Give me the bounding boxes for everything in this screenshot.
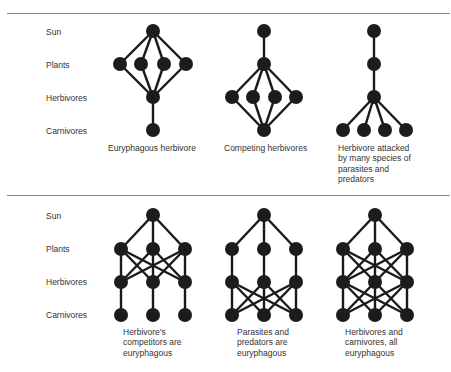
node-carnivores [257, 308, 271, 322]
node-carnivores [146, 123, 160, 137]
node-carnivores [257, 123, 271, 137]
node-sun [146, 208, 160, 222]
node-herbivores [368, 275, 382, 289]
node-carnivores [114, 308, 128, 322]
node-plants [367, 57, 381, 71]
food-web-bottom-1 [114, 208, 192, 322]
node-carnivores [378, 123, 392, 137]
node-carnivores [336, 123, 350, 137]
trophic-link [121, 215, 153, 249]
node-herbivores [225, 275, 239, 289]
food-web-top-3 [336, 24, 413, 137]
node-plants [257, 57, 271, 71]
node-sun [257, 208, 271, 222]
node-sun [367, 24, 381, 38]
node-herbivores [146, 275, 160, 289]
trophic-link [375, 215, 407, 249]
node-sun [368, 208, 382, 222]
node-herbivores [289, 90, 303, 104]
node-herbivores [114, 275, 128, 289]
node-herbivores [225, 90, 239, 104]
node-plants [368, 242, 382, 256]
node-herbivores [246, 90, 260, 104]
node-carnivores [357, 123, 371, 137]
node-plants [178, 242, 192, 256]
food-web-bottom-3 [336, 208, 414, 322]
node-carnivores [178, 308, 192, 322]
node-carnivores [399, 123, 413, 137]
node-plants [289, 242, 303, 256]
node-herbivores [178, 275, 192, 289]
trophic-link [153, 215, 185, 249]
node-plants [157, 57, 171, 71]
trophic-link [264, 215, 296, 249]
trophic-link [232, 215, 264, 249]
food-web-bottom-2 [225, 208, 303, 322]
node-plants [336, 242, 350, 256]
node-plants [146, 242, 160, 256]
node-plants [225, 242, 239, 256]
node-sun [146, 24, 160, 38]
node-plants [257, 242, 271, 256]
node-carnivores [225, 308, 239, 322]
food-web-top-1 [113, 24, 193, 137]
node-plants [134, 57, 148, 71]
node-carnivores [289, 308, 303, 322]
food-web-graphs [0, 0, 451, 372]
node-herbivores [146, 90, 160, 104]
node-herbivores [400, 275, 414, 289]
node-herbivores [367, 90, 381, 104]
node-plants [113, 57, 127, 71]
trophic-link [343, 215, 375, 249]
node-carnivores [336, 308, 350, 322]
node-carnivores [368, 308, 382, 322]
node-herbivores [289, 275, 303, 289]
node-herbivores [257, 275, 271, 289]
node-carnivores [400, 308, 414, 322]
node-sun [257, 24, 271, 38]
node-carnivores [146, 308, 160, 322]
node-plants [114, 242, 128, 256]
node-herbivores [336, 275, 350, 289]
food-web-top-2 [225, 24, 303, 137]
node-herbivores [268, 90, 282, 104]
node-plants [400, 242, 414, 256]
node-plants [179, 57, 193, 71]
